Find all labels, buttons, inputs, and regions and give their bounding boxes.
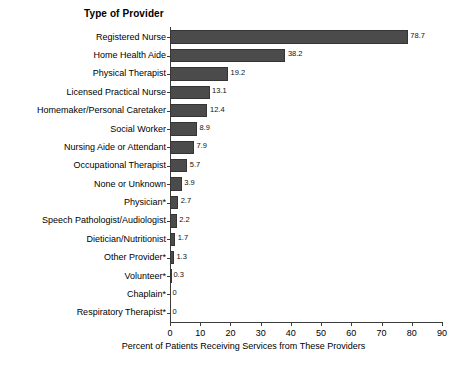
- bar-value-label: 12.4: [210, 104, 225, 116]
- bar[interactable]: [170, 269, 172, 282]
- bar-value-label: 7.9: [196, 140, 206, 152]
- bar-row[interactable]: 7.9: [170, 138, 442, 156]
- category-label: Nursing Aide or Attendant: [2, 141, 166, 153]
- bar-row[interactable]: 12.4: [170, 102, 442, 120]
- category-label: None or Unknown: [2, 178, 166, 190]
- bar[interactable]: [170, 177, 182, 190]
- category-label: Licensed Practical Nurse: [2, 86, 166, 98]
- bar[interactable]: [170, 251, 174, 264]
- chart-title: Type of Provider: [84, 8, 164, 19]
- bar-row[interactable]: 0.3: [170, 267, 442, 285]
- bar-row[interactable]: 1.3: [170, 249, 442, 267]
- bar-row[interactable]: 5.7: [170, 157, 442, 175]
- bar[interactable]: [170, 86, 210, 99]
- bar-row[interactable]: 8.9: [170, 120, 442, 138]
- x-axis-tick: [321, 322, 322, 326]
- x-axis-tick-label: 50: [316, 327, 326, 339]
- x-axis-tick-label: 40: [286, 327, 296, 339]
- bar-value-label: 2.7: [181, 195, 191, 207]
- bar-value-label: 8.9: [199, 122, 209, 134]
- category-label: Other Provider*: [2, 251, 166, 263]
- category-label: Dietician/Nutritionist: [2, 233, 166, 245]
- bar-value-label: 0.3: [173, 269, 183, 281]
- bar[interactable]: [170, 214, 177, 227]
- bar-row[interactable]: 19.2: [170, 65, 442, 83]
- x-axis-tick-label: 20: [225, 327, 235, 339]
- bar-row[interactable]: 13.1: [170, 83, 442, 101]
- bar-value-label: 78.7: [410, 30, 425, 42]
- bar-row[interactable]: 0: [170, 285, 442, 303]
- bar-row[interactable]: 78.7: [170, 28, 442, 46]
- x-axis-tick-label: 10: [195, 327, 205, 339]
- x-axis-title-text: Percent of Patients Receiving Services f…: [88, 341, 365, 351]
- category-label: Home Health Aide: [2, 49, 166, 61]
- category-label: Occupational Therapist: [2, 159, 166, 171]
- bar[interactable]: [170, 30, 408, 43]
- bar[interactable]: [170, 233, 175, 246]
- x-axis-tick-label: 0: [167, 327, 172, 339]
- x-axis-tick: [442, 322, 443, 326]
- category-label: Respiratory Therapist*: [2, 306, 166, 318]
- category-axis-labels: Registered NurseHome Health AidePhysical…: [0, 28, 166, 322]
- bar[interactable]: [170, 122, 197, 135]
- x-axis-tick-label: 60: [346, 327, 356, 339]
- bar-value-label: 3.9: [184, 177, 194, 189]
- x-axis-tick: [291, 322, 292, 326]
- plot-area: 78.738.219.213.112.48.97.95.73.92.72.21.…: [170, 28, 442, 322]
- x-axis-tick-label: 80: [407, 327, 417, 339]
- category-label: Homemaker/Personal Caretaker: [2, 104, 166, 116]
- y-axis-tick: [167, 294, 170, 295]
- bar-row[interactable]: 3.9: [170, 175, 442, 193]
- bar-value-label: 2.2: [179, 214, 189, 226]
- bar-value-label: 0: [173, 306, 177, 318]
- x-axis-tick: [261, 322, 262, 326]
- category-label: Social Worker: [2, 123, 166, 135]
- x-axis-tick: [412, 322, 413, 326]
- bar-row[interactable]: 38.2: [170, 46, 442, 64]
- x-axis-tick-label: 70: [377, 327, 387, 339]
- bar-chart: Type of Provider Registered NurseHome He…: [0, 0, 453, 372]
- x-axis-tick: [230, 322, 231, 326]
- x-axis-tick-label: 30: [256, 327, 266, 339]
- category-label: Registered Nurse: [2, 31, 166, 43]
- bar[interactable]: [170, 49, 285, 62]
- x-axis-tick-label: 90: [437, 327, 447, 339]
- category-label: Speech Pathologist/Audiologist: [2, 214, 166, 226]
- category-label: Volunteer*: [2, 270, 166, 282]
- bar-value-label: 5.7: [190, 159, 200, 171]
- bar-value-label: 1.7: [178, 232, 188, 244]
- bar-value-label: 38.2: [288, 48, 303, 60]
- category-label: Physician*: [2, 196, 166, 208]
- bar[interactable]: [170, 196, 178, 209]
- x-axis-tick: [170, 322, 171, 326]
- bar[interactable]: [170, 159, 187, 172]
- bar-row[interactable]: 2.2: [170, 212, 442, 230]
- category-label: Physical Therapist: [2, 67, 166, 79]
- bar[interactable]: [170, 104, 207, 117]
- bar-row[interactable]: 0: [170, 304, 442, 322]
- bar-value-label: 19.2: [231, 67, 246, 79]
- x-axis-tick: [351, 322, 352, 326]
- bar[interactable]: [170, 141, 194, 154]
- bar[interactable]: [170, 67, 228, 80]
- category-label: Chaplain*: [2, 288, 166, 300]
- x-axis-tick: [382, 322, 383, 326]
- x-axis-tick: [200, 322, 201, 326]
- y-axis-tick: [167, 313, 170, 314]
- bar-row[interactable]: 1.7: [170, 230, 442, 248]
- bar-value-label: 13.1: [212, 85, 227, 97]
- bar-value-label: 0: [173, 287, 177, 299]
- bar-value-label: 1.3: [176, 251, 186, 263]
- x-axis-title: Percent of Patients Receiving Services f…: [0, 341, 453, 351]
- bar-row[interactable]: 2.7: [170, 193, 442, 211]
